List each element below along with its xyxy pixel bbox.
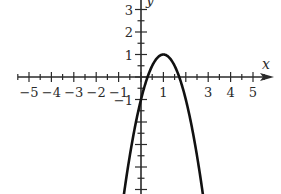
x-axis-label: x [262, 56, 270, 72]
x-tick-label: −5 [19, 85, 38, 100]
x-tick-label: −4 [42, 85, 61, 100]
y-tick-label: 2 [125, 25, 133, 40]
x-tick-label: −2 [87, 85, 106, 100]
y-tick-label: 1 [125, 48, 133, 63]
y-tick-label: 3 [125, 3, 133, 18]
x-tick-label: 5 [249, 85, 257, 100]
y-tick-label: −1 [114, 93, 133, 108]
x-tick-label: 3 [204, 85, 212, 100]
x-tick-label: −3 [64, 85, 83, 100]
x-tick-label: 4 [226, 85, 234, 100]
parabola-chart: xy −5−4−3−2−11345321−1 [0, 0, 281, 194]
y-axis-label: y [145, 0, 155, 8]
x-tick-label: 1 [159, 85, 167, 100]
